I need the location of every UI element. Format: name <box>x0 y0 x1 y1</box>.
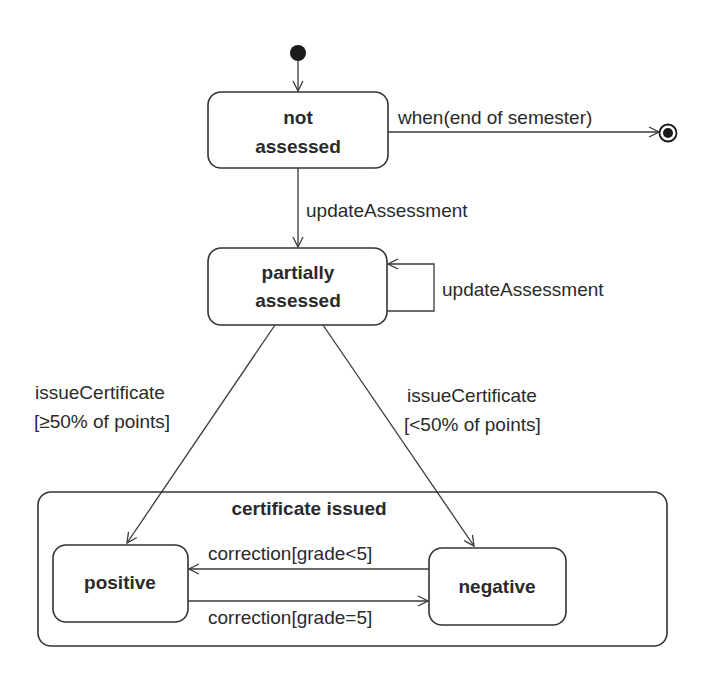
state-label: positive <box>84 572 156 593</box>
transition-label-issue-certificate-fail: issueCertificate <box>407 385 537 406</box>
state-negative[interactable]: negative <box>429 548 566 625</box>
transition-label-update-assessment: updateAssessment <box>306 200 468 221</box>
transition-label-self-loop: updateAssessment <box>442 279 604 300</box>
transition-self-loop-update-assessment <box>387 264 434 311</box>
state-machine-diagram: not assessed when(end of semester) updat… <box>0 0 712 681</box>
state-label-line1: not <box>283 107 313 128</box>
state-not-assessed[interactable]: not assessed <box>208 92 388 168</box>
transition-label-correction-lt5: correction[grade<5] <box>208 543 372 564</box>
final-state <box>660 125 677 142</box>
state-partially-assessed[interactable]: partially assessed <box>208 248 387 325</box>
state-positive[interactable]: positive <box>53 545 188 622</box>
transition-label-issue-certificate-pass: issueCertificate <box>35 382 165 403</box>
state-label: negative <box>458 576 535 597</box>
state-label-line2: assessed <box>255 290 341 311</box>
transition-guard-pass: [≥50% of points] <box>34 411 170 432</box>
transition-guard-fail: [<50% of points] <box>404 414 541 435</box>
state-label-line2: assessed <box>255 136 341 157</box>
state-label-line1: partially <box>262 262 335 283</box>
transition-label-correction-eq5: correction[grade=5] <box>208 607 372 628</box>
composite-state-label: certificate issued <box>231 498 386 519</box>
initial-state-dot <box>290 45 306 61</box>
transition-label-end-of-semester: when(end of semester) <box>397 107 592 128</box>
